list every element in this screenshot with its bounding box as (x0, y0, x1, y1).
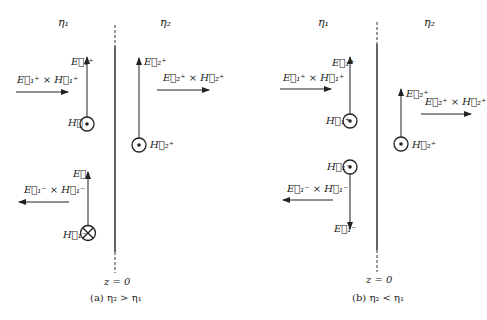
medium-2-label: η₂ (160, 17, 171, 28)
h2-plus-label: H⃗₂⁺ (412, 140, 436, 150)
h1-minus-label: H⃗₁⁻ (327, 162, 351, 172)
medium-1-label: η₁ (318, 17, 329, 28)
poynting-incident-label: E⃗₁⁺ × H⃗₁⁺ (17, 75, 78, 85)
h2-out-of-page-icon (394, 137, 408, 151)
h1-minus-label: H⃗₁⁻ (63, 230, 87, 240)
panel-a-caption: (a) η₂ > η₁ (90, 292, 142, 303)
medium-1-label: η₁ (58, 17, 69, 28)
boundary-label: z = 0 (366, 275, 392, 285)
diagram-canvas (0, 0, 487, 320)
poynting-incident-label: E⃗₁⁺ × H⃗₁⁺ (283, 73, 344, 83)
poynting-reflected-label: E⃗₁⁻ × H⃗₁⁻ (287, 184, 348, 194)
poynting-transmitted-label: E⃗₂⁺ × H⃗₂⁺ (163, 73, 224, 83)
medium-2-label: η₂ (424, 17, 435, 28)
h2-out-of-page-icon (132, 138, 146, 152)
panel-b-caption: (b) η₂ < η₁ (352, 292, 404, 303)
h1-plus-label: H⃗₁⁺ (326, 116, 350, 126)
e2-plus-label: E⃗₂⁺ (144, 57, 167, 67)
e1-minus-label: E⃗₁ (73, 169, 90, 179)
e1-plus-label: E⃗₁⁺ (332, 58, 355, 68)
h1-plus-label: H⃗ (68, 118, 83, 128)
e1-plus-label: E⃗₁⁺ (71, 57, 94, 67)
poynting-reflected-label: E⃗₁⁻ × H⃗₁⁻ (24, 185, 85, 195)
panel-b (280, 22, 471, 272)
boundary-label: z = 0 (104, 277, 130, 287)
panel-a (16, 25, 209, 273)
e1-minus-label: E⃗₁⁻ (334, 224, 357, 234)
h2-plus-label: H⃗₂⁺ (150, 140, 174, 150)
poynting-transmitted-label: E⃗₂⁺ × H⃗₂⁺ (425, 97, 486, 107)
